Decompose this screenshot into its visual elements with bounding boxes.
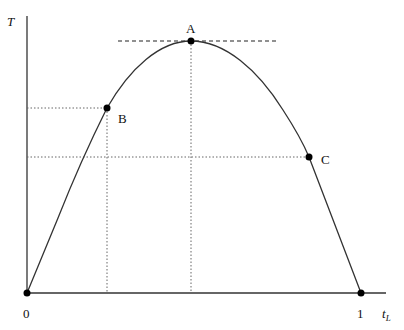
point-b-label: B: [118, 111, 127, 126]
point-b: [104, 105, 111, 112]
point-c: [306, 154, 313, 161]
point-a: [188, 38, 195, 45]
x-tick-1: 1: [357, 306, 364, 321]
x-axis-label: tL: [382, 306, 391, 323]
laffer-curve-diagram: T A B C 0 1 tL: [0, 0, 404, 330]
y-axis-label: T: [7, 14, 15, 29]
origin-point: [24, 290, 31, 297]
x-tick-0: 0: [23, 306, 30, 321]
point-a-label: A: [186, 21, 196, 36]
point-c-label: C: [321, 152, 330, 167]
point-one: [358, 290, 365, 297]
tax-revenue-curve: [27, 41, 361, 293]
